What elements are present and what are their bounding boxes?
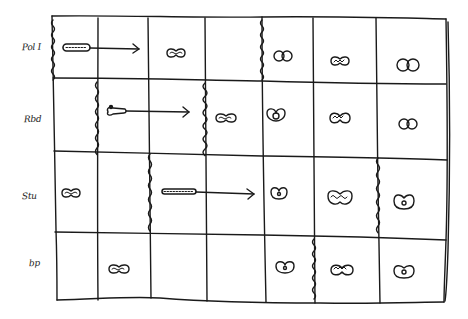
row-label-3: Stu (22, 191, 37, 202)
kiss-wave-symbol-r1c5 (331, 57, 349, 65)
kiss-wave-symbol-r2c5 (330, 113, 350, 123)
double-ring-symbol-r2c4 (267, 109, 285, 121)
grid-left-border (52, 16, 57, 300)
ring-dot-symbol-r4c6 (394, 266, 414, 278)
ring-dot-symbol-r3c4 (271, 188, 287, 199)
double-ring-symbol-r2c6 (399, 119, 417, 129)
row-label-2: Rbd (24, 114, 42, 125)
row-label-1: Pol I (22, 42, 41, 53)
double-ring-symbol-r1c4 (274, 51, 292, 61)
row-label-4: bp (29, 258, 40, 268)
kiss-wave-symbol-r3c0 (62, 189, 80, 197)
kiss-wave-symbol-r4c1 (109, 265, 129, 273)
arrow-r3 (196, 189, 254, 199)
row-divider-3 (55, 232, 446, 240)
kiss-wave-symbol-r1c2 (167, 49, 185, 57)
col-divider-4 (262, 17, 266, 302)
arrow-r2 (126, 107, 189, 117)
ring-dot-symbol-r4c4 (276, 262, 294, 273)
kiss-wave-symbol-r2c3 (216, 114, 236, 122)
row-divider-1 (53, 78, 446, 84)
grid-bottom-border (57, 297, 444, 303)
hand-drawn-grid-diagram (0, 0, 468, 319)
grid-top-border (52, 16, 446, 19)
row-divider-2 (54, 151, 447, 160)
col-divider-5 (313, 18, 315, 303)
kiss-wave-large-symbol-r3c5 (328, 191, 352, 204)
tadpole-symbol-r2 (107, 106, 126, 116)
ring-dot-symbol-r3c6 (394, 195, 414, 209)
rod-symbol-r3 (162, 189, 196, 194)
double-ring-symbol-r1c6 (397, 59, 419, 71)
col-divider-3 (205, 18, 207, 301)
rod-symbol-r1 (63, 44, 90, 51)
kiss-wave-symbol-r4c5 (331, 265, 353, 275)
